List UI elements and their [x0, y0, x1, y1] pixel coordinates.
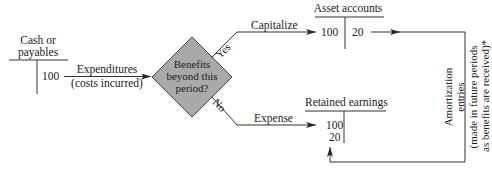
amortization-line4: as benefits are received)*: [480, 42, 492, 152]
expense-label: Expense: [254, 112, 293, 124]
asset-credit-value: 20: [352, 26, 364, 38]
retained-earnings-title: Retained earnings: [305, 96, 387, 108]
amortization-note: Amortization entries (made in future per…: [443, 42, 491, 152]
retained-earnings-t-account: [305, 111, 386, 143]
cash-account-title-line1: Cash or: [8, 34, 68, 46]
costs-incurred-label: (costs incurred): [66, 77, 148, 89]
retained-earnings-debit-2: 20: [329, 131, 341, 143]
cash-account-title-line2: payables: [8, 46, 68, 58]
decision-line2: beyond this: [152, 70, 232, 82]
expenditure-flowchart: Cash or payables 100 Expenditures (costs…: [0, 0, 492, 169]
asset-accounts-title: Asset accounts: [312, 2, 384, 14]
capitalize-label: Capitalize: [251, 19, 298, 31]
cash-credit-value: 100: [42, 70, 59, 82]
amortization-line2: entries: [455, 42, 467, 152]
amortization-line3: (made in future periods: [468, 42, 480, 152]
decision-question: Benefits beyond this period?: [152, 58, 232, 94]
amortization-line1: Amortization: [443, 42, 455, 152]
asset-debit-value: 100: [321, 26, 338, 38]
expenditures-label: Expenditures: [66, 63, 148, 75]
retained-earnings-debit-1: 100: [326, 119, 343, 131]
decision-line3: period?: [152, 82, 232, 94]
